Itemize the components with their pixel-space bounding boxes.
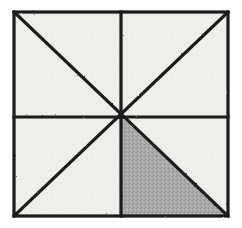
geometry-figure-svg [0,0,242,228]
center-intersection-point [118,114,123,119]
figure-container: Square divided by two diagonals and two … [0,0,242,228]
